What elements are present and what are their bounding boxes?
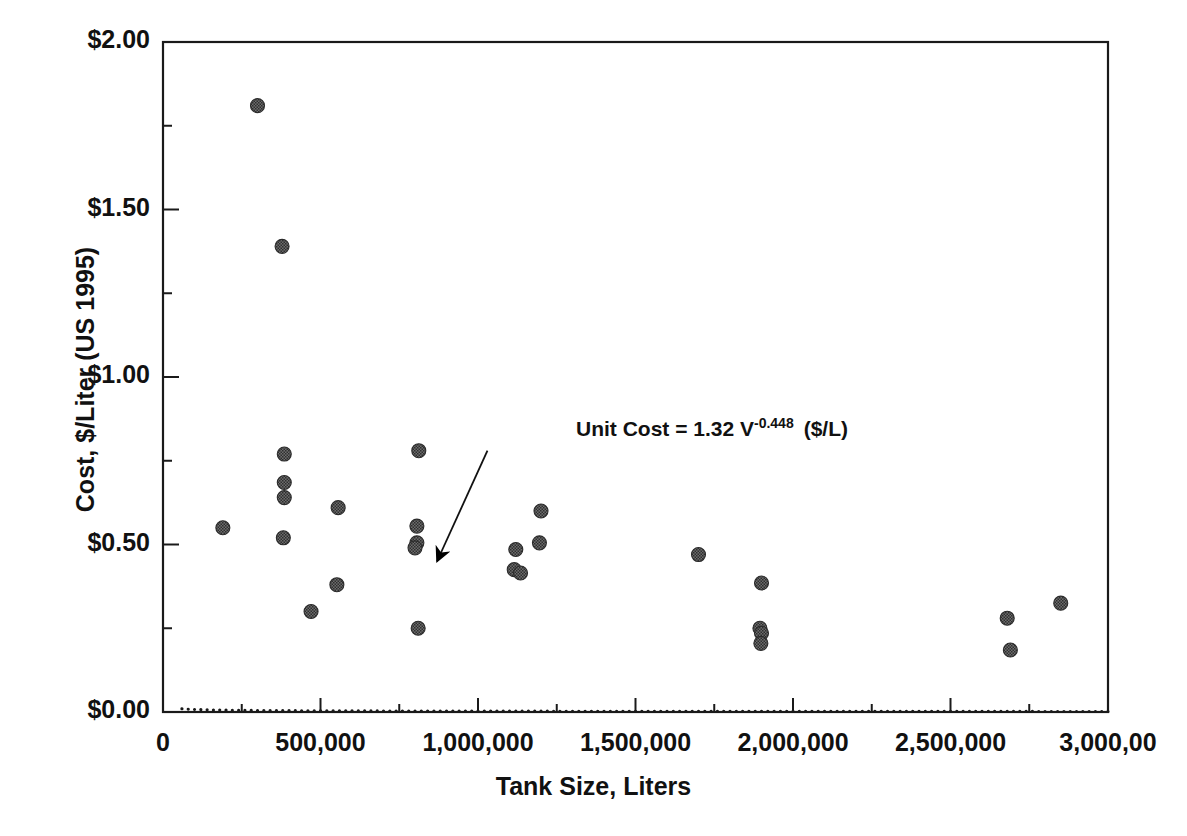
data-point — [410, 519, 424, 533]
equation-prefix: Unit Cost = 1.32 V — [576, 417, 754, 440]
data-point — [276, 531, 290, 545]
x-tick-label: 0 — [156, 728, 170, 757]
annotation-arrow — [437, 451, 487, 562]
data-point — [754, 636, 768, 650]
data-point — [1000, 611, 1014, 625]
data-point — [532, 536, 546, 550]
data-point — [408, 541, 422, 555]
y-axis-ticks — [163, 42, 179, 712]
data-point — [411, 621, 425, 635]
data-point — [1054, 596, 1068, 610]
data-point — [251, 99, 265, 113]
data-point — [216, 521, 230, 535]
data-point — [277, 476, 291, 490]
data-point — [534, 504, 548, 518]
trend-equation-label: Unit Cost = 1.32 V-0.448($/L) — [576, 415, 848, 441]
x-tick-label: 1,000,000 — [422, 728, 533, 757]
x-tick-label: 2,500,000 — [895, 728, 1006, 757]
data-point — [330, 578, 344, 592]
data-point — [277, 447, 291, 461]
data-point — [412, 444, 426, 458]
x-tick-label: 1,500,000 — [580, 728, 691, 757]
data-point — [275, 239, 289, 253]
x-tick-label: 500,000 — [275, 728, 365, 757]
data-point — [692, 548, 706, 562]
y-axis-title: Cost, $/Liter (US 1995) — [71, 50, 100, 710]
data-point-series — [216, 99, 1068, 657]
data-point — [1003, 643, 1017, 657]
data-point — [509, 543, 523, 557]
data-point — [277, 491, 291, 505]
equation-exponent: -0.448 — [754, 415, 794, 431]
data-point — [331, 501, 345, 515]
x-tick-label: 2,000,000 — [737, 728, 848, 757]
x-tick-label: 3,000,00 — [1059, 728, 1156, 757]
chart-figure: 0500,0001,000,0001,500,0002,000,0002,500… — [0, 0, 1187, 836]
data-point — [755, 576, 769, 590]
data-point — [514, 566, 528, 580]
x-axis-title: Tank Size, Liters — [0, 772, 1187, 801]
equation-suffix: ($/L) — [804, 417, 848, 440]
data-point — [304, 605, 318, 619]
